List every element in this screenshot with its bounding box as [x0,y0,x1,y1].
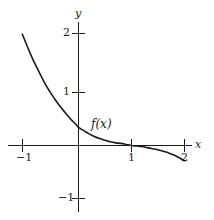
x-tick-label-2: 2 [181,152,188,163]
y-tick-label-1: 1 [63,86,70,97]
function-label: f(x) [91,118,112,130]
function-curve [22,34,184,161]
x-tick-label-1: 1 [128,152,135,163]
x-tick-label-minus1: −1 [16,152,32,163]
plot-canvas [0,0,214,220]
y-tick-label-2: 2 [63,27,70,38]
x-axis-label: x [195,139,201,150]
function-plot-figure: 2 1 −1 −1 1 2 y x f(x) [0,0,214,220]
y-tick-label-minus1: −1 [58,192,74,203]
y-axis-label: y [75,8,81,19]
